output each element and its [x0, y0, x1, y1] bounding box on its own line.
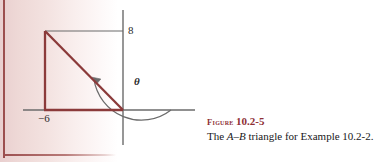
- figure-caption-text: The A–B triangle for Example 10.2-2.: [207, 129, 383, 143]
- figure-caption: Figure 10.2-5 The A–B triangle for Examp…: [207, 115, 383, 143]
- figure-caption-heading: Figure 10.2-5: [207, 115, 383, 128]
- caption-text-before: The: [207, 130, 227, 142]
- y-intercept-label: 8: [128, 25, 134, 36]
- caption-symbol: A–B: [227, 130, 246, 142]
- angle-arc: [94, 79, 171, 121]
- triangle-hypotenuse: [45, 31, 123, 110]
- figure-panel: 8 −6 θ Figure 10.2-5 The A–B triangle fo…: [0, 0, 383, 162]
- theta-angle-label: θ: [134, 76, 140, 87]
- figure-caption-number: 10.2-5: [236, 115, 264, 127]
- x-intercept-label: −6: [38, 113, 50, 124]
- caption-text-after: triangle for Example 10.2-2.: [246, 130, 374, 142]
- figure-caption-word: Figure: [207, 117, 236, 127]
- triangle-diagram: [0, 0, 205, 162]
